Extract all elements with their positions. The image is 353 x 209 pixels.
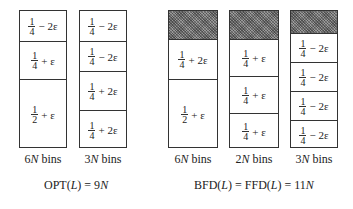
size-term: + ε xyxy=(252,89,266,101)
fraction: 14 xyxy=(178,50,185,69)
item-segment: 12+ ε xyxy=(20,79,66,149)
item-segment: 14− 2ε xyxy=(291,62,337,91)
fraction: 14 xyxy=(88,17,95,36)
unused-space-hatch xyxy=(169,11,217,39)
unused-space-hatch xyxy=(230,11,278,39)
item-segment: 14+ ε xyxy=(230,113,278,149)
size-term: − 2ε xyxy=(309,42,328,54)
item-segment: 14+ ε xyxy=(230,76,278,113)
size-term: − 2ε xyxy=(98,51,117,63)
item-segment: 14− 2ε xyxy=(291,91,337,120)
item-segment: 14+ ε xyxy=(230,39,278,76)
item-segment: 14− 2ε xyxy=(291,33,337,62)
opt-equation: OPT(L) = 9N xyxy=(44,178,108,193)
item-segment: 12+ ε xyxy=(169,79,217,149)
bfd-ffd-equation: BFD(L) = FFD(L) = 11N xyxy=(194,178,314,193)
item-segment: 14+ ε xyxy=(20,41,66,79)
size-term: + 2ε xyxy=(188,54,207,66)
fraction: 12 xyxy=(181,105,188,124)
item-segment: 14+ 2ε xyxy=(80,71,126,110)
bin-count-label: 3N bins xyxy=(280,152,348,167)
unused-space-hatch xyxy=(291,11,337,33)
size-term: + ε xyxy=(252,126,266,138)
item-segment: 14− 2ε xyxy=(20,11,66,41)
size-term: + ε xyxy=(41,55,55,67)
bin-left-1: 14− 2ε14+ ε12+ ε xyxy=(19,10,67,148)
size-term: + 2ε xyxy=(98,124,117,136)
size-term: − 2ε xyxy=(309,100,328,112)
fraction: 14 xyxy=(299,126,306,145)
fraction: 14 xyxy=(299,68,306,87)
size-term: − 2ε xyxy=(309,71,328,83)
fraction: 14 xyxy=(88,82,95,101)
item-segment: 14+ 2ε xyxy=(169,39,217,79)
size-term: + ε xyxy=(41,109,55,121)
bin-right-1: 14+ 2ε12+ ε xyxy=(168,10,218,148)
bin-count-label: 6N bins xyxy=(9,152,77,167)
size-term: + ε xyxy=(252,52,266,64)
size-term: + ε xyxy=(191,109,205,121)
size-term: − 2ε xyxy=(309,129,328,141)
item-segment: 14− 2ε xyxy=(291,120,337,149)
size-term: − 2ε xyxy=(98,20,117,32)
fraction: 14 xyxy=(242,49,249,68)
bin-count-label: 2N bins xyxy=(219,152,289,167)
fraction: 14 xyxy=(88,121,95,140)
fraction: 14 xyxy=(299,39,306,58)
bin-right-3: 14− 2ε14− 2ε14− 2ε14− 2ε xyxy=(290,10,338,148)
bin-count-label: 6N bins xyxy=(158,152,228,167)
fraction: 14 xyxy=(88,47,95,66)
bin-right-2: 14+ ε14+ ε14+ ε xyxy=(229,10,279,148)
size-term: − 2ε xyxy=(38,20,57,32)
item-segment: 14− 2ε xyxy=(80,11,126,41)
item-segment: 14+ 2ε xyxy=(80,110,126,149)
fraction: 14 xyxy=(28,17,35,36)
bin-left-2: 14− 2ε14− 2ε14+ 2ε14+ 2ε xyxy=(79,10,127,148)
fraction: 14 xyxy=(242,122,249,141)
size-term: + 2ε xyxy=(98,85,117,97)
fraction: 14 xyxy=(31,51,38,70)
fraction: 14 xyxy=(299,97,306,116)
fraction: 14 xyxy=(242,86,249,105)
item-segment: 14− 2ε xyxy=(80,41,126,71)
fraction: 12 xyxy=(31,105,38,124)
bin-count-label: 3N bins xyxy=(69,152,137,167)
